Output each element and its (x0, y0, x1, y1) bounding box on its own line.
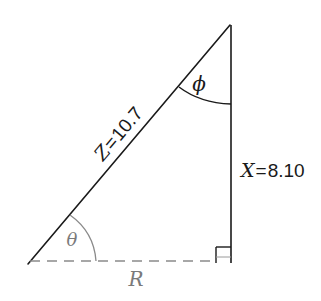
hypotenuse-line (28, 25, 230, 264)
right-angle-marker (216, 247, 231, 263)
theta-label: θ (67, 229, 78, 250)
vertical-side-value: 8.10 (268, 160, 305, 181)
phi-label: ϕ (192, 72, 206, 96)
impedance-triangle-diagram: ϕ θ Z=10.7 X=8.10 R (0, 0, 321, 301)
base-side-label: R (127, 267, 143, 291)
vertical-side-equals: = (256, 160, 267, 181)
vertical-side-label: X=8.10 (239, 159, 305, 181)
vertical-side-symbol: X (239, 159, 256, 181)
